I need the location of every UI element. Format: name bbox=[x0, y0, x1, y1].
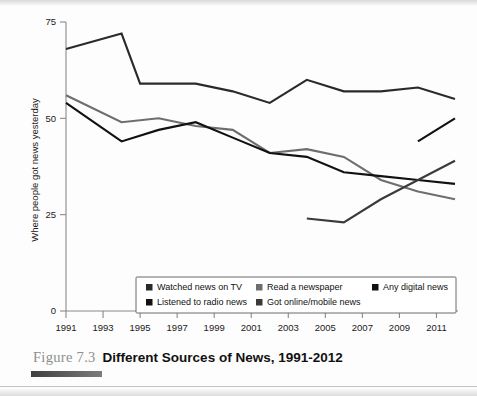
y-tick-label: 25 bbox=[45, 209, 56, 220]
figure-number: Figure 7.3 bbox=[33, 349, 96, 365]
caption-text-row: Figure 7.3Different Sources of News, 199… bbox=[33, 348, 343, 366]
chart-legend: Watched news on TVRead a newspaperAny di… bbox=[136, 277, 456, 313]
series-line bbox=[418, 118, 455, 141]
x-tick-label: 2007 bbox=[352, 322, 373, 333]
x-tick-label: 2001 bbox=[241, 322, 262, 333]
data-series-group bbox=[66, 34, 455, 223]
x-tick-label: 1993 bbox=[92, 322, 113, 333]
figure-title: Different Sources of News, 1991-2012 bbox=[103, 350, 343, 365]
legend-label: Any digital news bbox=[383, 282, 449, 292]
x-axis-ticks: 1991199319951997199920012003200520072009… bbox=[55, 311, 446, 333]
legend-label: Watched news on TV bbox=[157, 282, 242, 292]
legend-label: Listened to radio news bbox=[157, 297, 248, 307]
series-line bbox=[307, 161, 455, 223]
legend-label: Got online/mobile news bbox=[267, 297, 361, 307]
y-axis-title: Where people got news yesterday bbox=[29, 98, 40, 242]
series-line bbox=[66, 103, 455, 184]
figure-caption: Figure 7.3Different Sources of News, 199… bbox=[0, 345, 477, 390]
series-line bbox=[66, 95, 455, 199]
x-tick-label: 2011 bbox=[426, 322, 446, 333]
x-tick-label: 1997 bbox=[167, 322, 188, 333]
y-tick-label: 0 bbox=[51, 305, 56, 316]
x-tick-label: 2005 bbox=[315, 322, 336, 333]
legend-label: Read a newspaper bbox=[267, 282, 343, 292]
y-axis-ticks: 0255075 bbox=[45, 16, 66, 316]
x-tick-label: 2009 bbox=[389, 322, 410, 333]
x-tick-label: 1995 bbox=[130, 322, 151, 333]
line-chart: 0255075 19911993199519971999200120032005… bbox=[0, 0, 477, 340]
legend-swatch bbox=[372, 284, 379, 291]
legend-swatch bbox=[146, 284, 153, 291]
caption-rule-accent bbox=[31, 371, 102, 377]
y-tick-label: 50 bbox=[45, 113, 56, 124]
legend-swatch bbox=[146, 299, 153, 306]
figure-container: 0255075 19911993199519971999200120032005… bbox=[0, 0, 477, 396]
x-tick-label: 1991 bbox=[55, 322, 76, 333]
series-line bbox=[66, 34, 455, 103]
legend-swatch bbox=[256, 299, 263, 306]
y-tick-label: 75 bbox=[45, 16, 56, 27]
legend-swatch bbox=[256, 284, 263, 291]
page-bottom-rule bbox=[0, 386, 477, 387]
x-tick-label: 2003 bbox=[278, 322, 299, 333]
x-tick-label: 1999 bbox=[204, 322, 225, 333]
y-axis: 0255075 bbox=[45, 16, 66, 316]
x-axis: 1991199319951997199920012003200520072009… bbox=[55, 311, 458, 333]
chart-plot-area: 0255075 19911993199519971999200120032005… bbox=[0, 0, 477, 340]
